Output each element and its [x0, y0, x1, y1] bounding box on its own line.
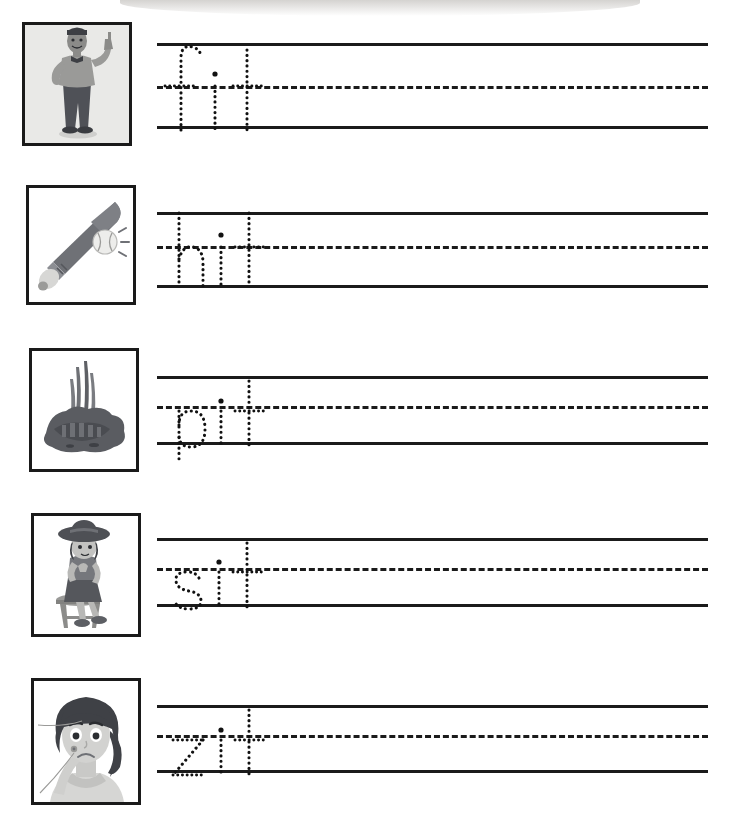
- rule-line-bottom: [157, 770, 708, 773]
- rule-line-bottom: [157, 442, 708, 445]
- rule-line-middle-dashed: [157, 406, 708, 409]
- rule-line-bottom: [157, 604, 708, 607]
- fit-man-illustration: [25, 25, 129, 143]
- zit-girl-illustration: [34, 681, 138, 802]
- worksheet-page: [0, 0, 733, 826]
- traced-word-zit: [159, 698, 269, 798]
- rule-line-top: [157, 212, 708, 215]
- traced-word-sit: [159, 531, 269, 631]
- rule-line-top: [157, 376, 708, 379]
- writing-lines-zit: [157, 645, 708, 810]
- rule-line-middle-dashed: [157, 86, 708, 89]
- sit-girl-illustration: [34, 516, 138, 634]
- rule-line-bottom: [157, 285, 708, 288]
- picture-card-pit: [29, 348, 139, 472]
- picture-girl-with-zit-on-face: [34, 681, 138, 802]
- writing-lines-pit: [157, 320, 708, 485]
- picture-card-hit: [26, 185, 136, 305]
- picture-girl-sitting-on-stool: [34, 516, 138, 634]
- picture-baseball-bat-hitting-ball: [29, 188, 133, 302]
- picture-man-standing-pointing-fit: [25, 25, 129, 143]
- rule-line-top: [157, 538, 708, 541]
- pit-illustration: [32, 351, 136, 469]
- writing-lines-hit: [157, 160, 708, 320]
- rule-line-top: [157, 43, 708, 46]
- picture-card-fit: [22, 22, 132, 146]
- picture-card-zit: [31, 678, 141, 805]
- hit-bat-illustration: [29, 188, 133, 302]
- rule-line-bottom: [157, 126, 708, 129]
- writing-lines-sit: [157, 485, 708, 645]
- rule-line-middle-dashed: [157, 246, 708, 249]
- traced-word-hit: [159, 205, 269, 305]
- picture-dirt-pit-with-plants: [32, 351, 136, 469]
- writing-lines-fit: [157, 0, 708, 160]
- traced-word-pit: [159, 369, 269, 479]
- rule-line-top: [157, 705, 708, 708]
- rule-line-middle-dashed: [157, 568, 708, 571]
- picture-card-sit: [31, 513, 141, 637]
- rule-line-middle-dashed: [157, 735, 708, 738]
